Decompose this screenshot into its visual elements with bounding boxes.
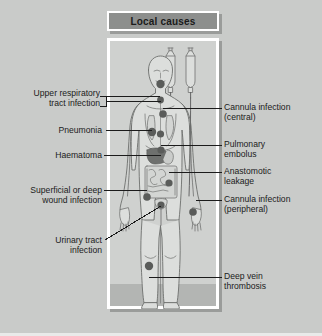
marker-upper-respiratory-tract-infection <box>156 80 164 88</box>
marker-pneumonia-2 <box>157 130 164 137</box>
label-superficial-or-deep-wound-infection: Superficial or deep wound infection <box>4 185 102 205</box>
left-hand <box>120 208 130 231</box>
label-haematoma: Haematoma <box>8 150 102 160</box>
label-urinary-tract-infection: Urinary tract infection <box>8 235 102 255</box>
panel-title: Local causes <box>130 16 195 27</box>
label-upper-respiratory-tract-infection: Upper respiratory tract infection <box>8 88 100 108</box>
label-deep-vein-thrombosis: Deep vein thrombosis <box>224 271 320 291</box>
iv-bag-right <box>186 48 195 98</box>
diagram-root: Local causes <box>0 0 322 336</box>
marker-cannula-infection-central <box>159 110 167 118</box>
label-cannula-infection-peripheral: Cannula infection (peripheral) <box>224 194 320 214</box>
label-pneumonia: Pneumonia <box>8 125 102 135</box>
marker-pulmonary-embolus <box>157 146 164 153</box>
label-pulmonary-embolus: Pulmonary embolus <box>224 139 320 159</box>
marker-anastomotic-leakage <box>165 179 172 186</box>
label-cannula-infection-central: Cannula infection (central) <box>224 102 320 122</box>
human-body-illustration <box>107 38 219 309</box>
title-bar-inner: Local causes <box>109 13 217 29</box>
marker-urinary-tract-infection <box>157 201 164 208</box>
marker-pneumonia <box>148 128 156 136</box>
marker-deep-vein-thrombosis <box>145 262 153 270</box>
marker-upper-respiratory-tract-infection-2 <box>157 97 164 104</box>
label-anastomotic-leakage: Anastomotic leakage <box>224 166 320 186</box>
marker-cannula-infection-peripheral <box>189 208 197 216</box>
marker-superficial-or-deep-wound-infection <box>143 193 151 201</box>
title-bar: Local causes <box>107 11 219 31</box>
leader-upper-respiratory-tract-infection-b <box>100 96 106 106</box>
